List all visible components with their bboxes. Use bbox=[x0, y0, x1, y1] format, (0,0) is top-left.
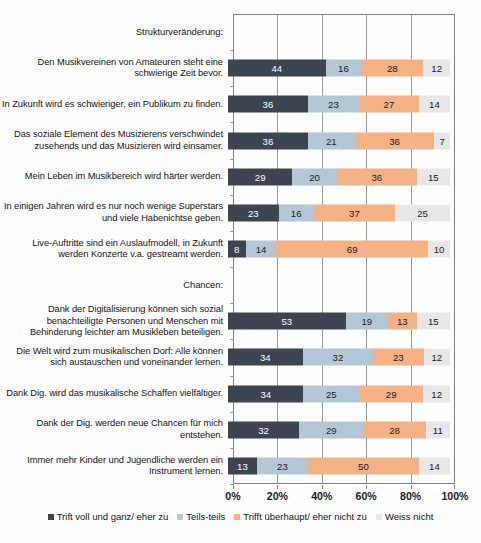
bar-segment[interactable]: 12 bbox=[423, 385, 450, 402]
x-axis-tick-label: 100% bbox=[441, 490, 468, 502]
bar-container: 34252912 bbox=[228, 376, 450, 412]
bar-container: 13235014 bbox=[228, 448, 450, 484]
bar-segment[interactable]: 10 bbox=[428, 240, 450, 257]
chart-legend: Trift voll und ganz/ eher zuTeils-teilsT… bbox=[0, 511, 481, 522]
x-axis-tick bbox=[233, 485, 234, 489]
stacked-bar[interactable]: 23163725 bbox=[228, 204, 450, 221]
bar-segment[interactable]: 28 bbox=[363, 421, 425, 438]
legend-label: Weiss nicht bbox=[385, 511, 433, 522]
bar-segment[interactable]: 23 bbox=[228, 204, 279, 221]
bar-container: 3621367 bbox=[228, 122, 450, 158]
bar-container: 44162812 bbox=[228, 50, 450, 86]
legend-swatch-icon bbox=[234, 514, 240, 520]
stacked-bar[interactable]: 29203615 bbox=[228, 168, 450, 185]
bar-segment[interactable]: 14 bbox=[419, 96, 450, 113]
bar-segment[interactable]: 32 bbox=[303, 349, 373, 366]
bar-segment[interactable]: 23 bbox=[373, 349, 424, 366]
bar-segment[interactable]: 11 bbox=[426, 421, 450, 438]
category-label: Live-Auftritte sind ein Auslaufmodell, i… bbox=[0, 238, 228, 261]
bar-segment[interactable]: 29 bbox=[299, 421, 363, 438]
legend-item[interactable]: Teils-teils bbox=[177, 511, 225, 522]
bar-segment[interactable]: 34 bbox=[228, 349, 303, 366]
chart-row: Den Musikvereinen von Amateuren steht ei… bbox=[0, 50, 481, 86]
category-label: In einigen Jahren wird es nur noch wenig… bbox=[0, 201, 228, 224]
stacked-bar[interactable]: 34252912 bbox=[228, 385, 450, 402]
stacked-bar[interactable]: 34322312 bbox=[228, 349, 450, 366]
bar-segment[interactable]: 29 bbox=[228, 168, 292, 185]
stacked-bar[interactable]: 8146910 bbox=[228, 240, 450, 257]
bar-segment[interactable]: 12 bbox=[424, 349, 450, 366]
bar-segment[interactable]: 34 bbox=[228, 385, 303, 402]
x-axis-tick bbox=[366, 485, 367, 489]
chart-row: Die Welt wird zum musikalischen Dorf: Al… bbox=[0, 339, 481, 375]
bar-container: 29203615 bbox=[228, 159, 450, 195]
section-header-row: Strukturveränderung: bbox=[0, 14, 481, 50]
stacked-bar[interactable]: 44162812 bbox=[228, 60, 450, 77]
chart-row: Dank der Dig. werden neue Chancen für mi… bbox=[0, 412, 481, 448]
bar-segment[interactable]: 21 bbox=[308, 132, 355, 149]
bar-segment[interactable]: 36 bbox=[337, 168, 417, 185]
bar-segment[interactable]: 69 bbox=[276, 240, 428, 257]
bar-segment[interactable]: 27 bbox=[359, 96, 419, 113]
bar-container: 23163725 bbox=[228, 195, 450, 231]
bar-segment[interactable]: 14 bbox=[419, 457, 450, 474]
chart-row: Live-Auftritte sind ein Auslaufmodell, i… bbox=[0, 231, 481, 267]
legend-swatch-icon bbox=[376, 514, 382, 520]
x-axis-tick bbox=[454, 485, 455, 489]
bar-segment[interactable]: 19 bbox=[346, 313, 388, 330]
category-label: Dank der Dig. werden neue Chancen für mi… bbox=[0, 418, 228, 441]
stacked-bar[interactable]: 3621367 bbox=[228, 132, 450, 149]
bar-segment[interactable]: 25 bbox=[395, 204, 450, 221]
stacked-bar[interactable]: 13235014 bbox=[228, 457, 450, 474]
stacked-bar[interactable]: 53191315 bbox=[228, 313, 450, 330]
bar-segment[interactable]: 13 bbox=[388, 313, 417, 330]
category-label: Die Welt wird zum musikalischen Dorf: Al… bbox=[0, 346, 228, 369]
bar-container: 34322312 bbox=[228, 339, 450, 375]
x-axis: 0%20%40%60%80%100% bbox=[233, 485, 455, 507]
category-label: Dank Dig. wird das musikalische Schaffen… bbox=[0, 388, 228, 399]
bar-segment[interactable]: 53 bbox=[228, 313, 346, 330]
bar-segment[interactable]: 44 bbox=[228, 60, 326, 77]
legend-item[interactable]: Weiss nicht bbox=[376, 511, 433, 522]
x-axis-tick bbox=[411, 485, 412, 489]
section-label: Strukturveränderung: bbox=[0, 26, 228, 37]
bar-segment[interactable]: 36 bbox=[355, 132, 435, 149]
bar-segment[interactable]: 16 bbox=[326, 60, 362, 77]
stacked-bar-chart: Strukturveränderung:Den Musikvereinen vo… bbox=[0, 0, 481, 543]
legend-item[interactable]: Trifft überhaupt/ eher nicht zu bbox=[234, 511, 367, 522]
chart-row: Mein Leben im Musikbereich wird härter w… bbox=[0, 159, 481, 195]
bar-segment[interactable]: 25 bbox=[303, 385, 359, 402]
category-label: Den Musikvereinen von Amateuren steht ei… bbox=[0, 57, 228, 80]
x-axis-tick bbox=[277, 485, 278, 489]
bar-segment[interactable]: 15 bbox=[417, 313, 450, 330]
bar-segment[interactable]: 37 bbox=[314, 204, 395, 221]
bar-segment[interactable]: 32 bbox=[228, 421, 299, 438]
bar-segment[interactable]: 14 bbox=[246, 240, 277, 257]
bar-container bbox=[228, 267, 450, 303]
stacked-bar[interactable]: 36232714 bbox=[228, 96, 450, 113]
bar-segment[interactable]: 50 bbox=[308, 457, 419, 474]
bar-segment[interactable]: 13 bbox=[228, 457, 257, 474]
stacked-bar[interactable]: 32292811 bbox=[228, 421, 450, 438]
chart-row: Das soziale Element des Musizierens vers… bbox=[0, 122, 481, 158]
section-label: Chancen: bbox=[0, 279, 228, 290]
category-label: Immer mehr Kinder und Jugendliche werden… bbox=[0, 455, 228, 478]
bar-segment[interactable]: 29 bbox=[359, 385, 423, 402]
bar-segment[interactable]: 23 bbox=[257, 457, 308, 474]
bar-segment[interactable]: 36 bbox=[228, 96, 308, 113]
legend-swatch-icon bbox=[48, 514, 54, 520]
bar-segment[interactable]: 28 bbox=[361, 60, 423, 77]
bar-container: 32292811 bbox=[228, 412, 450, 448]
bar-segment[interactable]: 36 bbox=[228, 132, 308, 149]
bar-segment[interactable]: 8 bbox=[228, 240, 246, 257]
bar-segment[interactable]: 16 bbox=[279, 204, 314, 221]
bar-segment[interactable]: 12 bbox=[423, 60, 450, 77]
bar-segment[interactable]: 15 bbox=[417, 168, 450, 185]
legend-item[interactable]: Trift voll und ganz/ eher zu bbox=[48, 511, 169, 522]
bar-segment[interactable]: 23 bbox=[308, 96, 359, 113]
category-label: Mein Leben im Musikbereich wird härter w… bbox=[0, 171, 228, 182]
category-label: Dank der Digitalisierung können sich soz… bbox=[0, 304, 228, 338]
bar-segment[interactable]: 20 bbox=[292, 168, 336, 185]
bar-segment[interactable]: 7 bbox=[434, 132, 450, 149]
category-label: Das soziale Element des Musizierens vers… bbox=[0, 129, 228, 152]
